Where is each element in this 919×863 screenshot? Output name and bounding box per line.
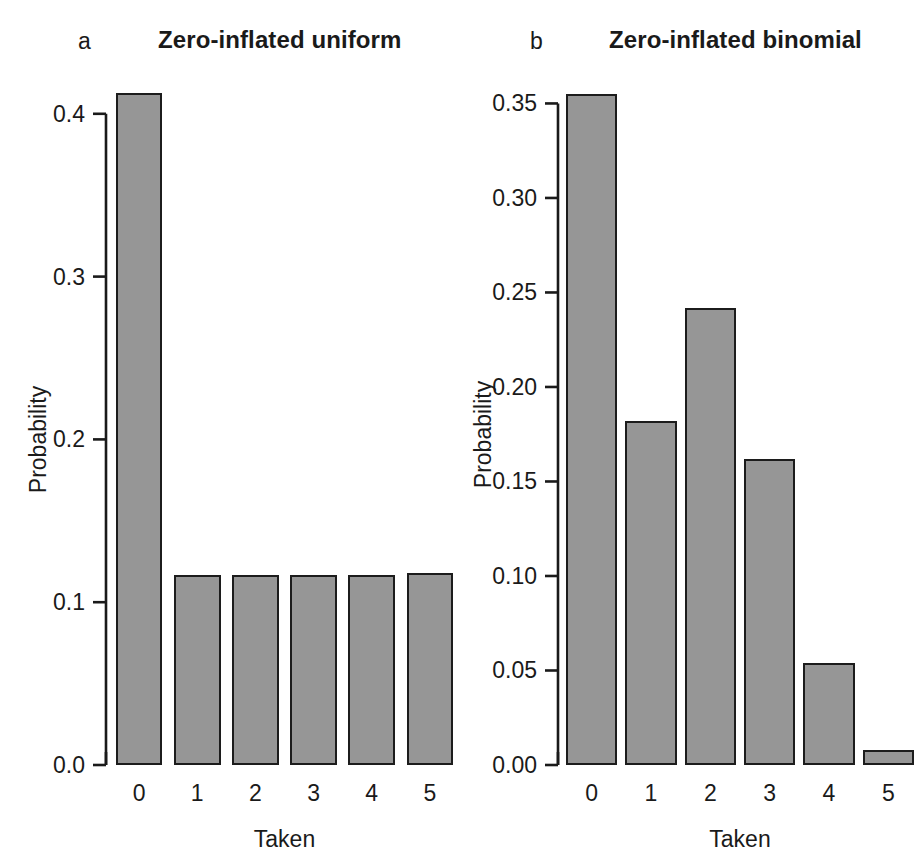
bar (290, 575, 337, 765)
panel-a: a Zero-inflated uniform 0.00.10.20.30.4P… (0, 0, 459, 863)
bar (174, 575, 221, 765)
x-tick-label: 1 (645, 782, 658, 805)
bar (566, 94, 617, 765)
y-tick-label: 0.15 (492, 470, 537, 493)
x-tick-label: 1 (191, 782, 204, 805)
y-tick-label: 0.35 (492, 92, 537, 115)
bar (685, 308, 736, 765)
x-tick-label: 0 (133, 782, 146, 805)
x-axis-title: Taken (254, 828, 315, 851)
y-tick-label: 0.3 (53, 265, 85, 288)
bar (803, 663, 854, 765)
x-axis-title: Taken (709, 828, 770, 851)
plot-area-a: 0.00.10.20.30.4Probability012345Taken (0, 0, 459, 863)
x-tick-label: 4 (823, 782, 836, 805)
x-tick-label: 5 (882, 782, 895, 805)
y-tick-label: 0.20 (492, 375, 537, 398)
bar (863, 750, 914, 765)
y-tick-label: 0.30 (492, 186, 537, 209)
figure-panel-group: a Zero-inflated uniform 0.00.10.20.30.4P… (0, 0, 919, 863)
x-tick-label: 5 (424, 782, 437, 805)
bar (116, 93, 163, 765)
y-tick-label: 0.0 (53, 754, 85, 777)
bar (625, 421, 676, 765)
y-tick-label: 0.1 (53, 591, 85, 614)
x-tick-label: 2 (704, 782, 717, 805)
x-tick-label: 3 (763, 782, 776, 805)
y-tick-label: 0.25 (492, 281, 537, 304)
bar (232, 575, 279, 765)
bar (744, 459, 795, 765)
y-tick-label: 0.10 (492, 564, 537, 587)
x-tick-label: 0 (585, 782, 598, 805)
panel-b: b Zero-inflated binomial 0.000.050.100.1… (459, 0, 918, 863)
y-tick-label: 0.05 (492, 659, 537, 682)
y-tick-label: 0.00 (492, 754, 537, 777)
x-tick-label: 4 (365, 782, 378, 805)
bar (407, 573, 454, 765)
x-tick-label: 3 (307, 782, 320, 805)
x-tick-label: 2 (249, 782, 262, 805)
plot-area-b: 0.000.050.100.150.200.250.300.35Probabil… (459, 0, 918, 863)
y-axis-title: Probability (27, 386, 50, 493)
y-axis-title: Probability (472, 381, 495, 488)
bar (348, 575, 395, 765)
y-tick-label: 0.2 (53, 428, 85, 451)
y-tick-label: 0.4 (53, 102, 85, 125)
